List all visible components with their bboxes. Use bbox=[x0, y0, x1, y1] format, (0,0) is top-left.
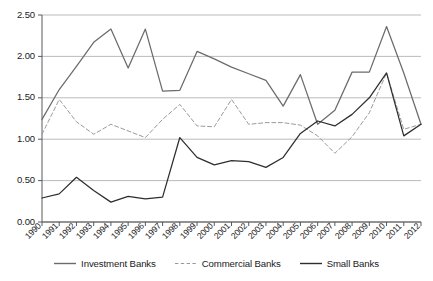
legend-label: Commercial Banks bbox=[202, 258, 281, 269]
line-chart: 0.000.501.001.502.002.50 199019911992199… bbox=[0, 0, 433, 281]
legend-swatch-solid-line-icon bbox=[300, 259, 322, 268]
chart-legend: Investment BanksCommercial BanksSmall Ba… bbox=[0, 258, 433, 269]
legend-entry[interactable]: Commercial Banks bbox=[175, 258, 281, 269]
series-line-small-banks bbox=[42, 73, 421, 202]
legend-label: Investment Banks bbox=[81, 258, 156, 269]
y-axis-tick-label: 0.50 bbox=[0, 174, 35, 185]
series-line-commercial-banks bbox=[42, 73, 421, 153]
y-axis-tick-label: 0.00 bbox=[0, 216, 35, 227]
legend-swatch-solid-line-icon bbox=[54, 259, 76, 268]
legend-label: Small Banks bbox=[327, 258, 379, 269]
series-line-investment-banks bbox=[42, 27, 421, 125]
legend-swatch-dashed-line-icon bbox=[175, 259, 197, 268]
y-axis-tick-label: 1.00 bbox=[0, 133, 35, 144]
legend-entry[interactable]: Investment Banks bbox=[54, 258, 156, 269]
legend-entry[interactable]: Small Banks bbox=[300, 258, 379, 269]
y-axis-tick-label: 1.50 bbox=[0, 91, 35, 102]
y-axis-tick-label: 2.00 bbox=[0, 50, 35, 61]
y-axis-tick-label: 2.50 bbox=[0, 9, 35, 20]
